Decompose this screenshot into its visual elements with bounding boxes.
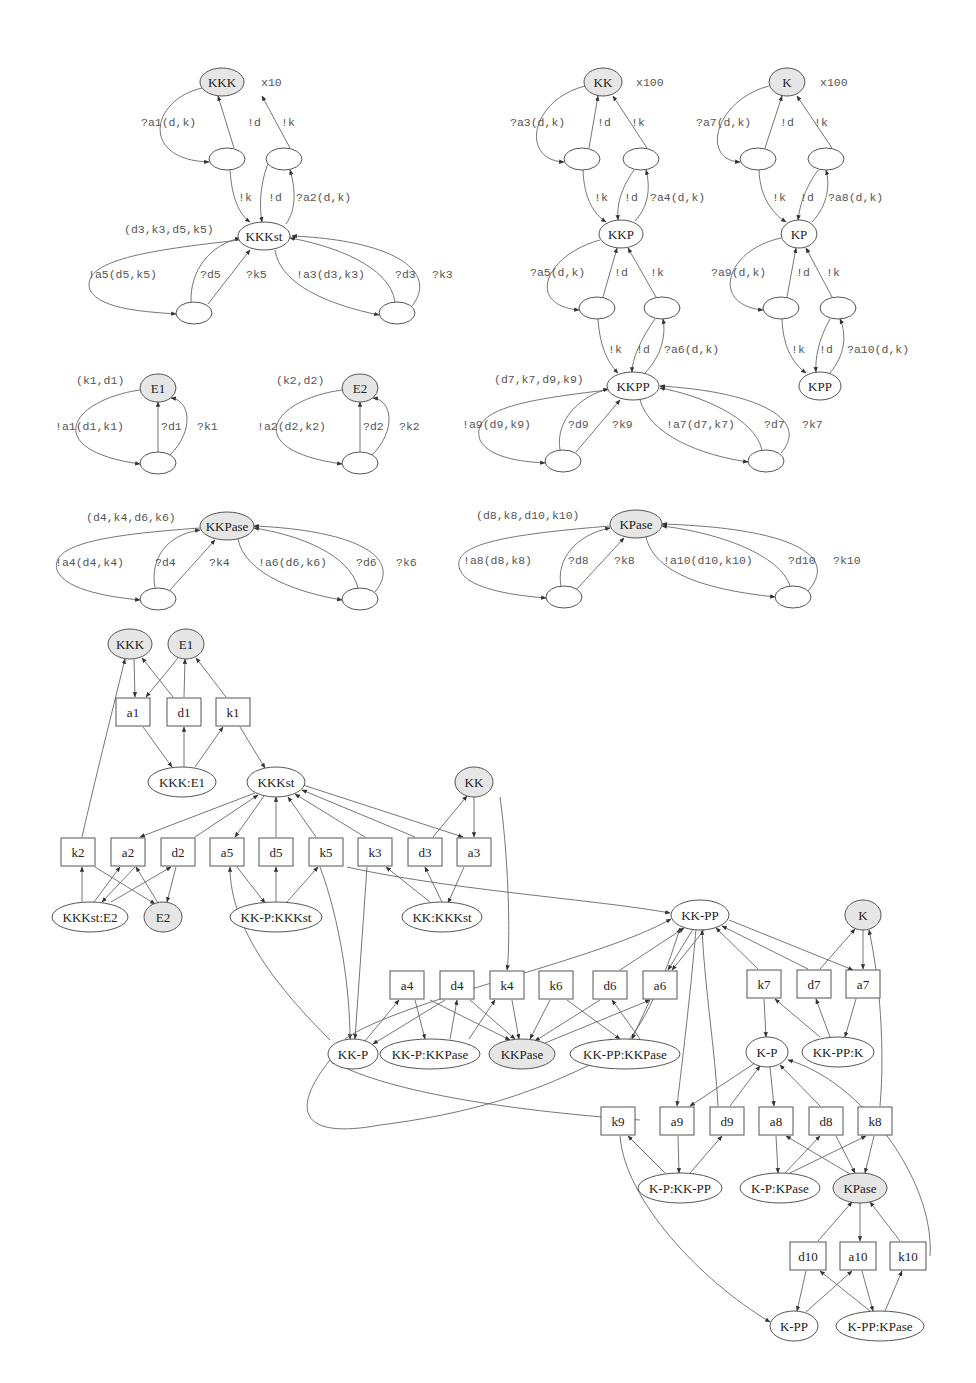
reaction-d7: d7 [797, 970, 831, 998]
species-k-p: K-P [746, 1037, 788, 1067]
network-edge [365, 1000, 399, 1041]
transition-label: !k [826, 266, 840, 279]
reaction-label: a1 [127, 705, 139, 720]
network-edge [702, 930, 718, 1106]
transition-label: ?a6(d,k) [664, 343, 719, 356]
species-kkkst-e2: KKKst:E2 [52, 902, 128, 932]
network-edge [373, 1000, 445, 1044]
transition-label: !k [650, 266, 664, 279]
network-edge [567, 1000, 620, 1039]
network-edge [235, 796, 264, 837]
species-label: K [858, 908, 868, 923]
reaction-label: d8 [820, 1114, 833, 1129]
network-edge [470, 1000, 515, 1039]
network-edge [545, 1000, 650, 1043]
state-ellipse [176, 302, 212, 324]
network-edge [240, 727, 265, 768]
automaton-edge [238, 539, 342, 600]
species-label: K-P:KK-PP [649, 1181, 711, 1196]
network-edge [776, 1136, 778, 1173]
reaction-label: k4 [501, 978, 515, 993]
transition-label: !d [614, 266, 628, 279]
network-edge [816, 999, 830, 1037]
reaction-d10: d10 [790, 1242, 826, 1270]
intermediate-state [342, 588, 378, 610]
network-edge [433, 796, 467, 837]
network-edge [862, 1271, 873, 1311]
intermediate-state [140, 452, 176, 474]
reaction-a10: a10 [840, 1242, 876, 1270]
transition-label: (d4,k4,d6,k6) [86, 511, 176, 524]
network-edge [425, 867, 442, 902]
state-label: KK [594, 75, 613, 90]
network-edge [870, 1202, 900, 1241]
species-k-pp-kpase: K-PP:KPase [836, 1311, 924, 1341]
network-edge [195, 727, 223, 767]
state-k: K [769, 68, 805, 96]
transition-label: !k [772, 191, 786, 204]
transition-label: (d8,k8,d10,k10) [476, 509, 580, 522]
transition-label: !k [791, 343, 805, 356]
intermediate-state [623, 148, 659, 170]
species-kk-p-kkkst: KK-P:KKKst [230, 902, 322, 932]
reaction-k2: k2 [61, 838, 95, 866]
state-e1: E1 [140, 374, 176, 402]
network-species-nodes: KKKE1KKK:E1KKKstKKKKKst:E2E2KK-P:KKKstKK… [52, 629, 924, 1341]
transition-label: ?a4(d,k) [650, 191, 705, 204]
intermediate-state [579, 297, 615, 319]
network-edge [134, 659, 135, 697]
transition-label: !a7(d7,k7) [666, 418, 735, 431]
transition-label: ?d3 [395, 268, 416, 281]
automaton-edge [275, 250, 379, 315]
transition-label: ?k10 [833, 554, 861, 567]
transition-label: ?a5(d,k) [530, 266, 585, 279]
state-label: KP [791, 227, 808, 242]
species-label: KK:KKKst [412, 910, 472, 925]
species-label: KKKst [258, 775, 295, 790]
state-kkpase: KKPase [200, 512, 254, 540]
automaton-edge [218, 96, 234, 148]
network-edge [288, 797, 316, 837]
reaction-label: k9 [612, 1114, 625, 1129]
state-ellipse [808, 148, 844, 170]
network-edge [690, 1136, 722, 1173]
network-edge [722, 926, 808, 969]
network-edge [764, 999, 766, 1037]
reaction-label: d6 [604, 978, 618, 993]
transition-label: !k [281, 116, 295, 129]
transition-label: !d [780, 116, 794, 129]
state-kpase: KPase [610, 510, 662, 538]
species-e1: E1 [168, 629, 204, 659]
intermediate-state [342, 452, 378, 474]
state-ellipse [748, 450, 784, 472]
species-k-p-kpase: K-P:KPase [740, 1173, 820, 1203]
transition-label: ?k4 [209, 556, 230, 569]
reaction-a5: a5 [210, 838, 244, 866]
transition-label: !k [608, 343, 622, 356]
reaction-label: a10 [849, 1249, 868, 1264]
state-ellipse [644, 297, 680, 319]
state-label: E2 [353, 381, 367, 396]
state-ellipse [140, 588, 176, 610]
transition-label: ?a2(d,k) [296, 191, 351, 204]
transition-label: (k2,d2) [276, 374, 324, 387]
reaction-label: a2 [122, 845, 134, 860]
species-kk: KK [455, 767, 493, 797]
transition-label: ?a7(d,k) [696, 116, 751, 129]
network-edge [865, 1136, 874, 1173]
network-edge [678, 1136, 679, 1173]
species-k-p-kk-pp: K-P:KK-PP [638, 1173, 722, 1203]
automata-states: KKKKKKstKKKKPKKPPKKPKPPE1E2KKPaseKPase [140, 68, 856, 610]
reaction-label: k2 [72, 845, 85, 860]
transition-label: (d3,k3,d5,k5) [124, 223, 214, 236]
network-edge [95, 867, 155, 904]
reaction-k3: k3 [358, 838, 392, 866]
reaction-d5: d5 [259, 838, 293, 866]
transition-label: ?a8(d,k) [828, 191, 883, 204]
network-edge [295, 794, 365, 837]
reaction-label: k10 [898, 1249, 918, 1264]
network-edge [786, 1136, 850, 1174]
intermediate-state [545, 450, 581, 472]
transition-label: !k [238, 191, 252, 204]
intermediate-state [820, 297, 856, 319]
